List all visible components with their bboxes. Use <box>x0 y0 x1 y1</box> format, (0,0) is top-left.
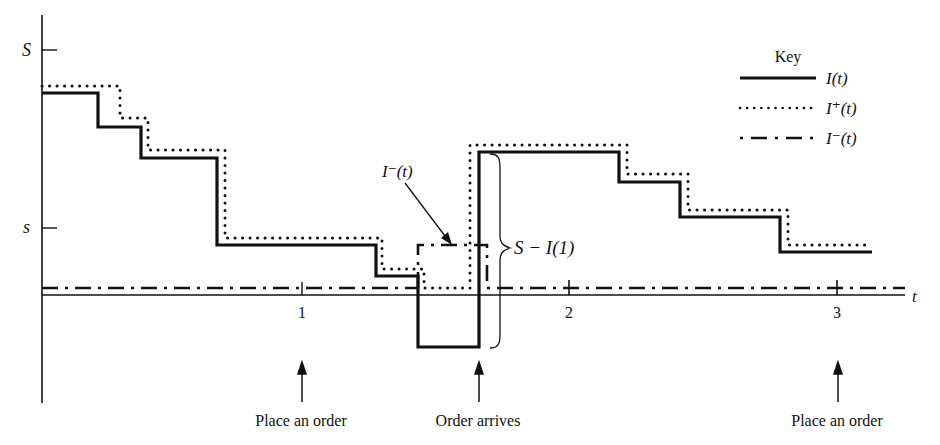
axes <box>42 15 905 403</box>
legend-label-i-plus: I⁺(t) <box>825 99 857 118</box>
t-tick-label-3: 3 <box>833 304 841 321</box>
legend-label-i-minus: I⁻(t) <box>825 129 857 148</box>
i-minus-line <box>42 245 905 288</box>
event-label-place-order-2: Place an order <box>791 412 883 429</box>
i-plus-line <box>42 86 872 288</box>
i-minus-callout-label: I⁻(t) <box>381 162 413 181</box>
inventory-diagram: S s t 1 2 3 I⁻(t) S − I(1) Key I(t) I⁺(t… <box>0 0 940 445</box>
event-arrows <box>298 362 842 402</box>
brace-label: S − I(1) <box>514 237 574 259</box>
legend: Key I(t) I⁺(t) I⁻(t) <box>740 48 857 148</box>
t-tick-label-2: 2 <box>565 304 573 321</box>
brace-icon <box>490 154 510 348</box>
arrow-up-icon <box>475 362 483 374</box>
t-tick-label-1: 1 <box>298 304 306 321</box>
event-label-order-arrives: Order arrives <box>436 412 521 429</box>
y-label-S: S <box>22 40 31 60</box>
i-line <box>42 93 872 347</box>
callout-arrow <box>405 183 448 240</box>
legend-title: Key <box>775 48 802 66</box>
arrow-up-icon <box>298 362 306 374</box>
legend-label-i: I(t) <box>825 69 848 88</box>
event-label-place-order-1: Place an order <box>255 412 347 429</box>
y-label-s: s <box>23 217 30 237</box>
arrow-up-icon <box>834 362 842 374</box>
t-axis-label: t <box>912 287 918 306</box>
